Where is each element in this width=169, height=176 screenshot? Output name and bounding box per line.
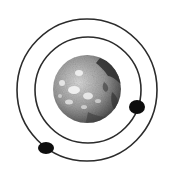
moon-outer <box>38 142 54 154</box>
planet <box>53 55 121 123</box>
moon-inner <box>129 100 145 114</box>
planet-orbit-illustration <box>0 0 169 176</box>
planet-orbit-graphic <box>0 0 169 176</box>
